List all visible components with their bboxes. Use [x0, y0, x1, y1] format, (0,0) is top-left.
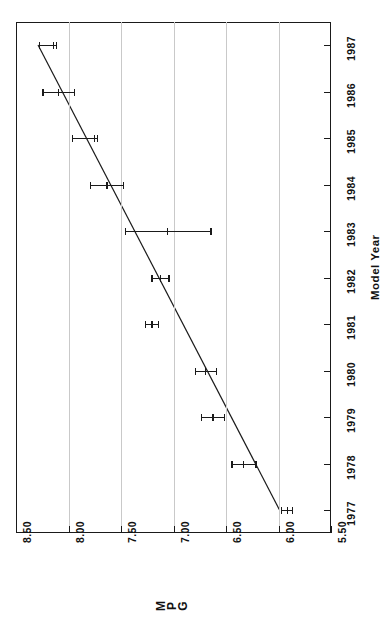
error-bar-cap: [39, 42, 40, 49]
error-bar-cap: [97, 135, 98, 142]
data-point-marker: [205, 368, 206, 375]
value-axis-tick-label: 7.00: [179, 521, 191, 543]
data-point-marker: [151, 321, 152, 328]
data-point-marker: [53, 42, 54, 49]
error-bar-cap: [123, 182, 124, 189]
error-bar-cap: [224, 414, 225, 421]
error-bar-cap: [168, 275, 169, 282]
category-axis-tick: [324, 417, 331, 418]
value-axis-tick: [121, 526, 122, 533]
error-bar-cap: [231, 461, 232, 468]
gridline: [279, 22, 280, 533]
error-bar-cap: [158, 321, 159, 328]
error-bar-cap: [42, 89, 43, 96]
category-axis-tick: [324, 185, 331, 186]
error-bar-cap: [210, 228, 211, 235]
category-axis-title: Model Year: [369, 235, 381, 301]
error-bar-cap: [255, 461, 256, 468]
error-bar-cap: [125, 228, 126, 235]
value-axis-tick: [16, 526, 17, 533]
category-axis-tick: [324, 278, 331, 279]
gridline: [69, 22, 70, 533]
category-axis-tick: [324, 464, 331, 465]
category-axis-tick-label: 1985: [345, 129, 357, 154]
category-axis-tick: [324, 45, 331, 46]
error-bar-cap: [281, 507, 282, 514]
value-axis-tick-label: 6.00: [284, 521, 296, 543]
error-bar-cap: [90, 182, 91, 189]
data-point-marker: [106, 182, 107, 189]
error-bar-cap: [292, 507, 293, 514]
data-point-marker: [287, 507, 288, 514]
error-bar-cap: [72, 135, 73, 142]
value-axis-tick: [69, 526, 70, 533]
category-axis-tick-label: 1978: [345, 455, 357, 480]
error-bar-cap: [216, 368, 217, 375]
value-axis-tick-label: 7.50: [126, 521, 138, 543]
error-bar-cap: [145, 321, 146, 328]
category-axis-tick-label: 1986: [345, 83, 357, 108]
error-bar-cap: [151, 275, 152, 282]
value-axis-tick: [331, 526, 332, 533]
error-bar-cap: [56, 42, 57, 49]
value-axis-title: MPG: [156, 599, 187, 613]
value-axis-tick-label: 8.50: [21, 521, 33, 543]
category-axis-tick-label: 1982: [345, 269, 357, 294]
category-axis-tick-label: 1980: [345, 362, 357, 387]
gridline: [121, 22, 122, 533]
category-axis-tick: [324, 510, 331, 511]
category-axis-tick-label: 1983: [345, 222, 357, 247]
value-axis-tick: [226, 526, 227, 533]
error-bar-cap: [201, 414, 202, 421]
category-axis-tick: [324, 371, 331, 372]
category-axis-tick: [324, 92, 331, 93]
category-axis-tick-label: 1984: [345, 176, 357, 201]
gridline: [174, 22, 175, 533]
data-point-marker: [243, 461, 244, 468]
value-axis-tick: [174, 526, 175, 533]
category-axis-tick-label: 1979: [345, 408, 357, 433]
category-axis-tick: [324, 324, 331, 325]
data-point-marker: [167, 228, 168, 235]
error-bar-cap: [74, 89, 75, 96]
category-axis-tick: [324, 231, 331, 232]
error-bar-cap: [195, 368, 196, 375]
value-axis-tick-label: 8.00: [74, 521, 86, 543]
category-axis-tick: [324, 138, 331, 139]
data-point-marker: [212, 414, 213, 421]
data-point-marker: [94, 135, 95, 142]
data-point-marker: [160, 275, 161, 282]
category-axis-tick-label: 1977: [345, 501, 357, 526]
category-axis-tick-label: 1987: [345, 36, 357, 61]
category-axis-tick-label: 1981: [345, 315, 357, 340]
gridline: [226, 22, 227, 533]
value-axis-title-char: G: [176, 601, 190, 610]
value-axis-tick-label: 6.50: [231, 521, 243, 543]
value-axis-tick: [279, 526, 280, 533]
data-point-marker: [58, 89, 59, 96]
